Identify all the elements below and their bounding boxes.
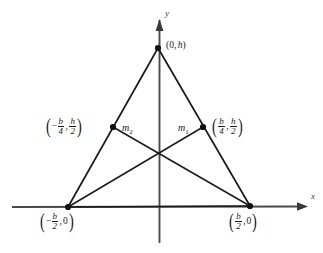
- bl-x-fraction: b2: [52, 212, 59, 231]
- br-y-value: 0: [247, 217, 252, 227]
- left-mid-x-numerator: b: [58, 117, 65, 126]
- left-mid-x-denominator: 4: [58, 126, 65, 136]
- bottom-right-vertex-label: (b2,0): [228, 212, 258, 231]
- left-mid-comma: ,: [65, 122, 69, 132]
- right-mid-x-fraction: b4: [218, 117, 225, 136]
- right-mid-close-paren: ): [238, 117, 243, 136]
- bl-y-value: 0: [63, 217, 68, 227]
- bottom-right-dot: [247, 203, 253, 209]
- right-side-midpoint-label: (b4,h2): [211, 117, 244, 136]
- x-axis-label: x: [311, 192, 315, 201]
- median-m2-subscript: 2: [129, 128, 133, 136]
- y-axis-label: y: [165, 9, 169, 18]
- bottom-left-vertex-label: (−b2,0): [39, 212, 74, 231]
- bl-x-sign: −: [46, 217, 51, 227]
- right-mid-y-fraction: h2: [230, 117, 237, 136]
- left-midpoint-dot: [110, 124, 116, 130]
- right-mid-x-denominator: 4: [218, 126, 225, 136]
- bl-x-denominator: 2: [52, 221, 59, 231]
- median-m1-subscript: 1: [185, 128, 189, 136]
- left-mid-x-sign: −: [52, 122, 57, 132]
- bl-close-paren: ): [69, 212, 74, 231]
- bl-open-paren: (: [40, 212, 45, 231]
- left-mid-open-paren: (: [46, 117, 51, 136]
- left-mid-y-numerator: h: [69, 117, 76, 126]
- apex-dot: [155, 45, 161, 51]
- apex-close-paren: ): [183, 41, 186, 51]
- median-line-m2: [113, 127, 250, 206]
- br-x-fraction: b2: [235, 212, 242, 231]
- apex-vertex-label: (0,h): [166, 41, 186, 51]
- left-mid-y-denominator: 2: [69, 126, 76, 136]
- right-mid-y-denominator: 2: [230, 126, 237, 136]
- geometry-figure: y x (0,h) (−b4,h2) (b4,h2) (−b2,0) (b2,0…: [0, 0, 323, 253]
- y-axis-arrowhead: [156, 19, 164, 31]
- median-m2-label: m2: [122, 123, 133, 136]
- right-mid-open-paren: (: [212, 117, 217, 136]
- left-mid-x-fraction: b4: [58, 117, 65, 136]
- br-x-numerator: b: [235, 212, 242, 221]
- right-mid-comma: ,: [225, 122, 229, 132]
- right-mid-y-numerator: h: [230, 117, 237, 126]
- left-mid-close-paren: ): [77, 117, 82, 136]
- right-midpoint-dot: [200, 124, 206, 130]
- br-open-paren: (: [229, 212, 234, 231]
- left-mid-y-fraction: h2: [69, 117, 76, 136]
- triangle-side-base: [68, 206, 250, 207]
- right-mid-x-numerator: b: [218, 117, 225, 126]
- x-axis-arrowhead: [297, 202, 308, 210]
- median-m1-label: m1: [178, 123, 189, 136]
- left-side-midpoint-label: (−b4,h2): [45, 117, 83, 136]
- bl-x-numerator: b: [52, 212, 59, 221]
- br-close-paren: ): [252, 212, 257, 231]
- br-x-denominator: 2: [235, 221, 242, 231]
